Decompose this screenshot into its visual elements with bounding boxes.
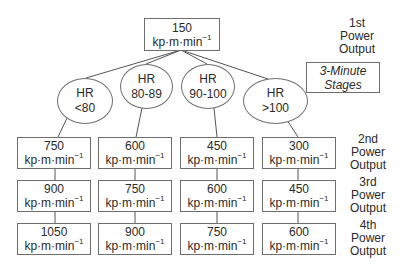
power-box-c4-r3: 600 kp·m·min−1 [262,223,336,255]
power-box-c2-r1: 600 kp·m·min−1 [98,137,172,169]
power-box-c3-r3: 750 kp·m·min−1 [180,223,254,255]
power-box-c3-r1: 450 kp·m·min−1 [180,137,254,169]
start-power-box: 150 kp·m·min−1 [144,18,220,51]
power-unit: kp·m·min−1 [152,35,211,49]
power-box-c1-r3: 1050 kp·m·min−1 [17,223,91,255]
power-value: 150 [172,21,192,35]
power-box-c4-r2: 450 kp·m·min−1 [262,180,336,212]
hr-node-gt100: HR>100 [243,78,308,124]
power-box-c2-r3: 900 kp·m·min−1 [98,223,172,255]
hr-node-80-89: HR80-89 [120,64,173,109]
power-box-c2-r2: 750 kp·m·min−1 [98,180,172,212]
power-box-c4-r1: 300 kp·m·min−1 [262,137,336,169]
row-label-2nd-power-output: 2nd Power Output [343,133,393,172]
row-label-3rd-power-output: 3rd Power Output [343,176,393,215]
power-box-c3-r2: 600 kp·m·min−1 [180,180,254,212]
hr-node-lt80: HR<80 [57,78,113,124]
row-label-4th-power-output: 4th Power Output [343,219,393,258]
stage-duration-note: 3-Minute Stages [306,62,380,93]
hr-node-90-100: HR90-100 [181,64,235,109]
row-label-1st-power-output: 1st Power Output [332,17,382,56]
power-box-c1-r1: 750 kp·m·min−1 [17,137,91,169]
power-box-c1-r2: 900 kp·m·min−1 [17,180,91,212]
